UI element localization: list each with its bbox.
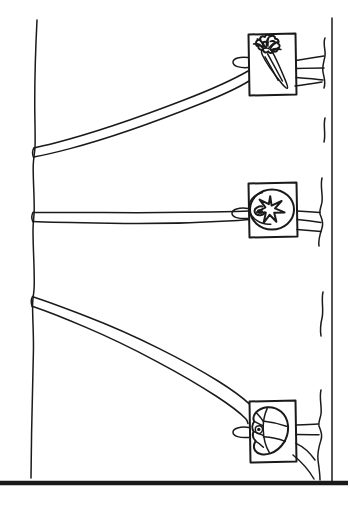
carrot-leaf-hole-1 bbox=[262, 41, 268, 42]
garlic-eye-dot bbox=[257, 428, 260, 431]
paper-background bbox=[0, 0, 350, 512]
tag-1-tail-line-2 bbox=[296, 68, 324, 69]
figure-root bbox=[0, 0, 350, 512]
wiggle-mark-1 bbox=[324, 118, 325, 142]
tomato-stem-tip bbox=[257, 209, 263, 214]
tag-3-tail-line-1 bbox=[296, 424, 318, 425]
line-drawing-canvas bbox=[0, 0, 350, 512]
carrot-leaf-hole-3 bbox=[261, 46, 266, 47]
